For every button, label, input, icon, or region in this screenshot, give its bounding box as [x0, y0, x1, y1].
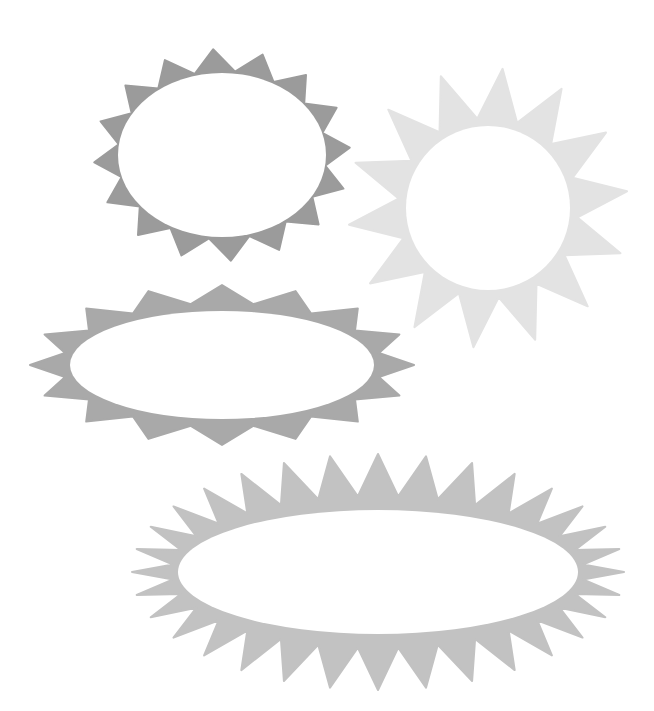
starburst-badge-wide-oval — [30, 285, 414, 445]
blank-label-area — [406, 126, 570, 290]
starburst-badge-oval-dark — [94, 49, 349, 260]
badge-shapes-canvas — [0, 0, 654, 711]
blank-label-area — [178, 510, 578, 634]
blank-label-area — [70, 311, 374, 419]
starburst-badge-long-oval-spiky — [132, 454, 624, 690]
sun-badge-circle-light — [349, 69, 627, 347]
blank-label-area — [118, 73, 326, 237]
